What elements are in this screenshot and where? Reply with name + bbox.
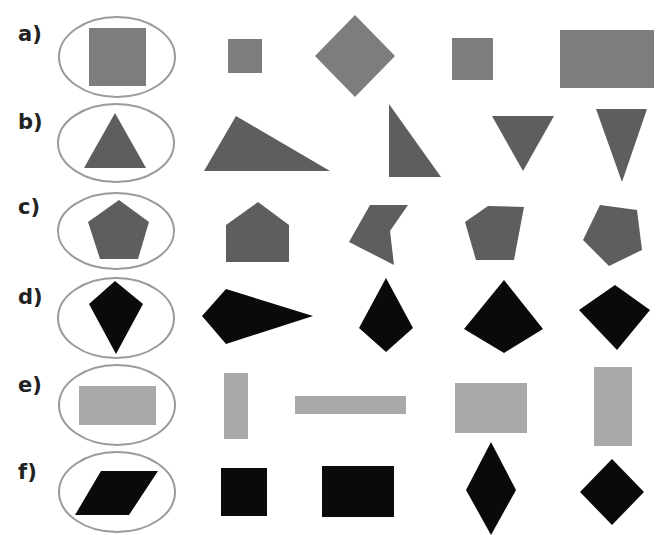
shapes-canvas <box>0 0 658 535</box>
reference-parallelogram <box>75 471 158 515</box>
row-a <box>59 15 654 97</box>
option-rectangle[interactable] <box>560 30 654 88</box>
option-long-thin-rectangle[interactable] <box>295 396 406 414</box>
option-irregular-pentagon[interactable] <box>465 206 524 260</box>
option-concave-pentagon[interactable] <box>349 205 408 265</box>
option-scalene-triangle[interactable] <box>204 116 330 171</box>
option-tall-inverted-triangle[interactable] <box>596 109 647 182</box>
reference-pentagon <box>88 200 149 259</box>
option-small-square-2[interactable] <box>452 38 493 80</box>
row-c <box>58 193 642 269</box>
reference-rectangle <box>79 386 156 425</box>
option-kite[interactable] <box>359 278 413 352</box>
option-small-square-1[interactable] <box>228 39 262 73</box>
option-rotated-quadrilateral[interactable] <box>579 285 650 350</box>
row-e <box>59 365 632 446</box>
reference-kite <box>89 281 143 354</box>
option-diamond[interactable] <box>580 459 644 525</box>
reference-triangle <box>84 113 146 168</box>
option-rotated-kite[interactable] <box>202 289 313 344</box>
row-d <box>58 278 650 358</box>
option-square[interactable] <box>221 468 267 516</box>
option-house-pentagon[interactable] <box>226 202 289 262</box>
option-inverted-triangle[interactable] <box>492 116 554 171</box>
option-tall-rectangle-2[interactable] <box>594 367 632 446</box>
option-tall-rhombus[interactable] <box>466 442 516 535</box>
row-f <box>59 442 644 535</box>
option-wide-kite[interactable] <box>464 280 543 353</box>
option-rectangle[interactable] <box>455 383 527 433</box>
row-b <box>58 104 647 182</box>
option-tall-rectangle-1[interactable] <box>224 373 248 439</box>
option-rotated-pentagon[interactable] <box>583 205 642 266</box>
reference-square <box>89 28 146 86</box>
option-diamond[interactable] <box>315 15 395 97</box>
option-right-triangle[interactable] <box>389 104 441 177</box>
option-rectangle[interactable] <box>322 466 394 517</box>
